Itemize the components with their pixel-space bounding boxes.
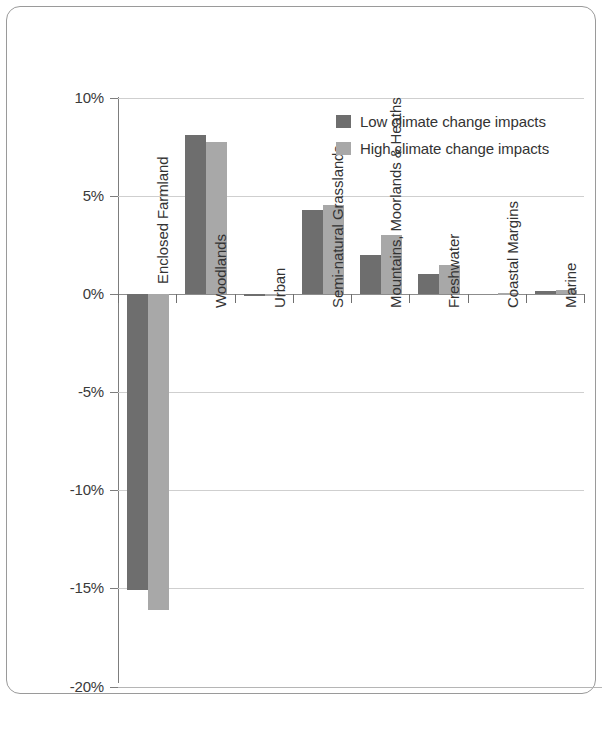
chart-frame: [6, 6, 596, 694]
